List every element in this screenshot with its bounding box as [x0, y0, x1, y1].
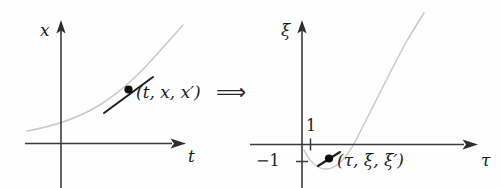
math-figure: x t (t, x, x′) ⟹ ξ τ 1 −1 (τ, ξ, ξ′)	[0, 0, 501, 188]
implies-arrow: ⟹	[216, 82, 246, 103]
left-marked-point	[124, 85, 132, 93]
right-parabola-curve	[304, 13, 424, 169]
right-point-label: (τ, ξ, ξ′)	[337, 152, 404, 169]
left-solution-curve	[27, 25, 183, 131]
tick-label-xi-minus-one: −1	[256, 153, 280, 169]
figure-canvas	[0, 0, 501, 188]
right-vertical-axis-label: ξ	[281, 22, 290, 39]
right-horizontal-axis-label: τ	[481, 152, 490, 169]
right-marked-point	[325, 154, 333, 162]
left-horizontal-axis-label: t	[188, 148, 195, 165]
left-plot-group	[25, 20, 186, 188]
left-point-label: (t, x, x′)	[136, 84, 201, 101]
right-horizontal-axis-arrowhead	[463, 139, 479, 149]
left-vertical-axis-label: x	[40, 22, 50, 39]
tick-label-tau-one: 1	[306, 118, 316, 134]
left-horizontal-axis-arrowhead	[171, 138, 187, 148]
